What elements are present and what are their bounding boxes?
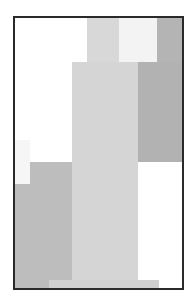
light-bottom-strip [49, 280, 159, 290]
faint-white-left-notch [15, 140, 30, 184]
dark-gray-top-right [157, 18, 184, 62]
mid-gray-left-upper [30, 162, 72, 290]
artwork-frame [13, 16, 184, 290]
dark-gray-right-column [138, 62, 184, 162]
off-white-top-block [119, 18, 157, 62]
mid-gray-left-lower [15, 184, 30, 290]
light-gray-center-column [72, 62, 138, 290]
light-gray-top-column [87, 18, 121, 62]
